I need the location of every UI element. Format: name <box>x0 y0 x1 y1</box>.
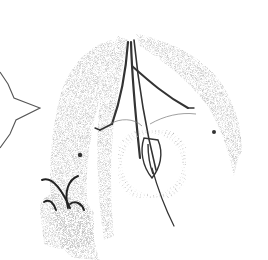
webbing <box>110 113 196 126</box>
left-outline <box>0 72 40 148</box>
dot-left <box>78 153 82 157</box>
spindle-bud <box>142 138 161 178</box>
dot-right <box>212 130 216 134</box>
scientific-illustration <box>0 0 268 260</box>
radiating-disc <box>118 130 186 198</box>
